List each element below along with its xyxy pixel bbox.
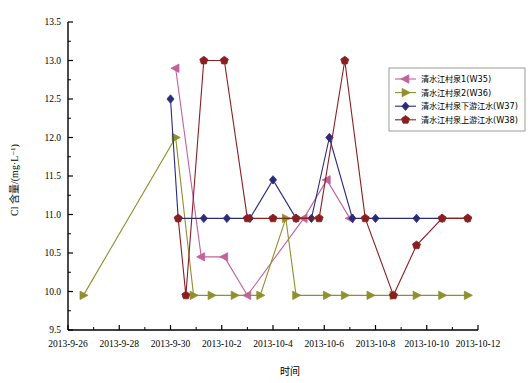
chart-container: 9.510.010.511.011.512.012.513.013.5 2013… bbox=[0, 0, 531, 383]
x-tick-label: 2013-10-12 bbox=[456, 339, 501, 349]
x-tick-label: 2013-10-2 bbox=[202, 339, 242, 349]
y-tick-label: 12.0 bbox=[44, 133, 61, 143]
y-tick-label: 10.0 bbox=[44, 287, 61, 297]
x-tick-label: 2013-10-8 bbox=[356, 339, 396, 349]
x-tick-label: 2013-9-30 bbox=[151, 339, 191, 349]
x-tick-label: 2013-10-4 bbox=[253, 339, 293, 349]
legend-label: 清水江村泉下游江水(W37) bbox=[421, 101, 518, 111]
x-tick-label: 2013-10-6 bbox=[304, 339, 344, 349]
y-tick-label: 11.5 bbox=[45, 171, 62, 181]
x-axis-title: 时间 bbox=[280, 365, 300, 377]
legend[interactable]: 清水江村泉1(W35)清水江村泉2(W36)清水江村泉下游江水(W37)清水江村… bbox=[389, 68, 525, 131]
y-axis-title: Cl 含量/(mg·L⁻¹) bbox=[8, 144, 21, 216]
legend-label: 清水江村泉上游江水(W38) bbox=[421, 115, 518, 125]
y-tick-label: 9.5 bbox=[49, 325, 61, 335]
y-tick-label: 13.5 bbox=[44, 17, 61, 27]
x-tick-label: 2013-10-10 bbox=[405, 339, 450, 349]
y-tick-label: 13.0 bbox=[44, 56, 61, 66]
legend-label: 清水江村泉1(W35) bbox=[421, 74, 491, 84]
x-tick-label: 2013-9-28 bbox=[99, 339, 139, 349]
y-tick-label: 12.5 bbox=[44, 94, 61, 104]
y-tick-label: 10.5 bbox=[44, 248, 61, 258]
y-tick-label: 11.0 bbox=[45, 210, 62, 220]
legend-label: 清水江村泉2(W36) bbox=[421, 88, 491, 98]
x-tick-label: 2013-9-26 bbox=[48, 339, 88, 349]
line-chart: 9.510.010.511.011.512.012.513.013.5 2013… bbox=[0, 0, 531, 383]
